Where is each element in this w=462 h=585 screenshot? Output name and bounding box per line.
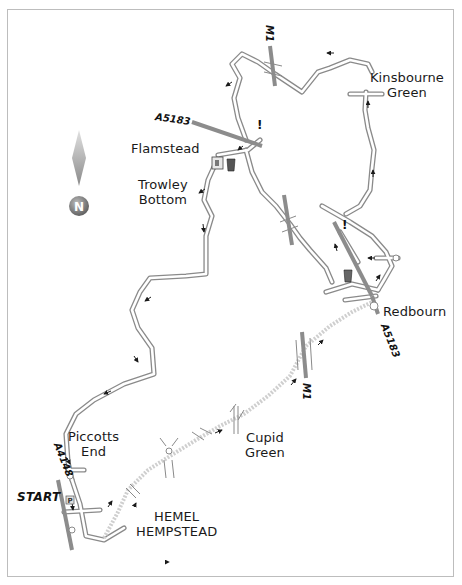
label-flamstead: Flamstead — [131, 141, 200, 156]
road-label-m1-north: M1 — [264, 25, 275, 42]
label-piccotts-end: Piccotts End — [68, 429, 119, 459]
warning-icon: ! — [257, 118, 262, 132]
label-redbourn: Redbourn — [383, 304, 446, 319]
label-trowley-bottom: Trowley Bottom — [138, 177, 188, 207]
warning-icon: ! — [342, 218, 347, 232]
parking-icon: P — [66, 496, 74, 505]
minor-roads — [64, 54, 398, 540]
label-cupid-green: Cupid Green — [245, 430, 285, 460]
church-icon — [212, 157, 223, 169]
label-hemel-hempstead: HEMEL HEMPSTEAD — [136, 509, 217, 539]
pub-icon — [227, 159, 235, 171]
svg-text:N: N — [74, 200, 84, 214]
route-arrows — [67, 53, 380, 562]
svg-text:P: P — [67, 497, 72, 505]
start-label: START — [17, 490, 61, 504]
major-roads — [58, 46, 378, 550]
north-arrow-icon: N — [69, 130, 89, 216]
label-kinsbourne-green: Kinsbourne Green — [370, 70, 444, 100]
road-label-m1-south: M1 — [301, 383, 312, 400]
pub-icon — [344, 270, 352, 282]
